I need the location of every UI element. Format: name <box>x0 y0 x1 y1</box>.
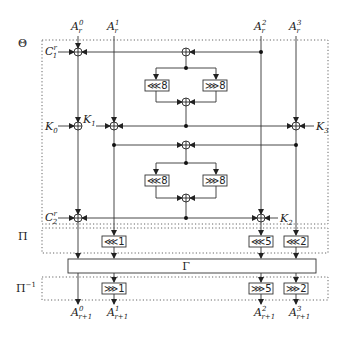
svg-text:Cr2: Cr2 <box>45 210 58 226</box>
svg-text:⋘5: ⋘5 <box>251 236 272 247</box>
svg-text:⋙5: ⋙5 <box>251 283 272 294</box>
xor-icon <box>74 48 82 56</box>
svg-text:K2: K2 <box>279 212 293 227</box>
xor-icon <box>257 214 265 222</box>
svg-text:A1r: A1r <box>106 19 119 35</box>
svg-text:⋙1: ⋙1 <box>104 283 125 294</box>
pi-rotation-boxes: ⋘1 ⋘5 ⋘2 <box>102 236 308 247</box>
pi-inverse-rotation-boxes: ⋙1 ⋙5 ⋙2 <box>102 283 308 294</box>
svg-text:⋘8: ⋘8 <box>147 80 168 91</box>
xor-icon <box>182 194 190 202</box>
svg-text:A3r+1: A3r+1 <box>288 305 310 321</box>
rotate-right-2: ⋙2 <box>284 283 308 294</box>
svg-text:⋘1: ⋘1 <box>104 236 125 247</box>
gamma-box: Γ <box>68 259 316 273</box>
xor-icon <box>74 214 82 222</box>
cipher-round-diagram: Θ Π Π−1 A0r A1r A2r A3r <box>0 0 349 339</box>
output-labels: A0r+1 A1r+1 A2r+1 A3r+1 <box>70 305 310 321</box>
rotate-right-5: ⋙5 <box>249 283 273 294</box>
xor-icon <box>292 122 300 130</box>
svg-text:K3: K3 <box>315 120 329 135</box>
junction-dots <box>112 50 298 220</box>
xor-icon <box>110 122 118 130</box>
svg-text:Γ: Γ <box>182 260 190 273</box>
svg-text:⋙2: ⋙2 <box>286 283 307 294</box>
rotate-left-2: ⋘2 <box>284 236 308 247</box>
svg-text:A3r: A3r <box>288 19 302 35</box>
svg-text:⋙8: ⋙8 <box>205 80 226 91</box>
svg-text:Cr1: Cr1 <box>45 44 57 60</box>
input-labels: A0r A1r A2r A3r <box>70 19 302 35</box>
rotate-right-1: ⋙1 <box>102 283 126 294</box>
svg-text:A0r: A0r <box>70 19 84 35</box>
xor-icon <box>182 98 190 106</box>
theta-rotation-boxes: ⋘8 ⋙8 ⋘8 ⋙8 <box>145 80 227 186</box>
svg-text:A0r+1: A0r+1 <box>70 305 92 321</box>
pi-label: Π <box>18 230 28 243</box>
xor-nodes <box>74 48 300 222</box>
rotate-left-8-lower: ⋘8 <box>145 175 169 186</box>
svg-text:⋘8: ⋘8 <box>147 175 168 186</box>
rotate-left-8-upper: ⋘8 <box>145 80 169 91</box>
svg-text:A2r: A2r <box>253 19 267 35</box>
svg-text:K1: K1 <box>82 113 96 128</box>
svg-text:A1r+1: A1r+1 <box>106 305 128 321</box>
svg-text:⋙8: ⋙8 <box>205 175 226 186</box>
xor-icon <box>182 141 190 149</box>
svg-text:K0: K0 <box>44 120 58 135</box>
xor-icon <box>74 122 82 130</box>
pi-inverse-label: Π−1 <box>16 281 36 295</box>
rotate-right-8-upper: ⋙8 <box>203 80 227 91</box>
rotate-left-1: ⋘1 <box>102 236 126 247</box>
svg-text:⋘2: ⋘2 <box>286 236 307 247</box>
rotate-left-5: ⋘5 <box>249 236 273 247</box>
xor-icon <box>182 48 190 56</box>
theta-label: Θ <box>18 37 27 50</box>
rotate-right-8-lower: ⋙8 <box>203 175 227 186</box>
svg-text:A2r+1: A2r+1 <box>253 305 275 321</box>
